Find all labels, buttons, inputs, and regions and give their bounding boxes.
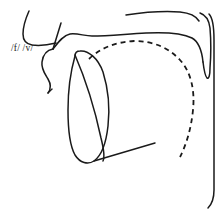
nasal-cavity-floor-path	[126, 12, 199, 21]
tongue-root-path	[75, 55, 104, 161]
upper-lip-path	[23, 11, 56, 45]
phoneme-label: /f/ /v/	[11, 43, 33, 53]
tongue-contour-dashed-path	[89, 41, 193, 157]
velum-uvula-path	[200, 13, 211, 78]
vocal-tract-diagram: /f/ /v/	[0, 0, 218, 211]
vocal-tract-svg: /f/ /v/	[0, 0, 218, 211]
lower-lip-path	[42, 49, 53, 93]
